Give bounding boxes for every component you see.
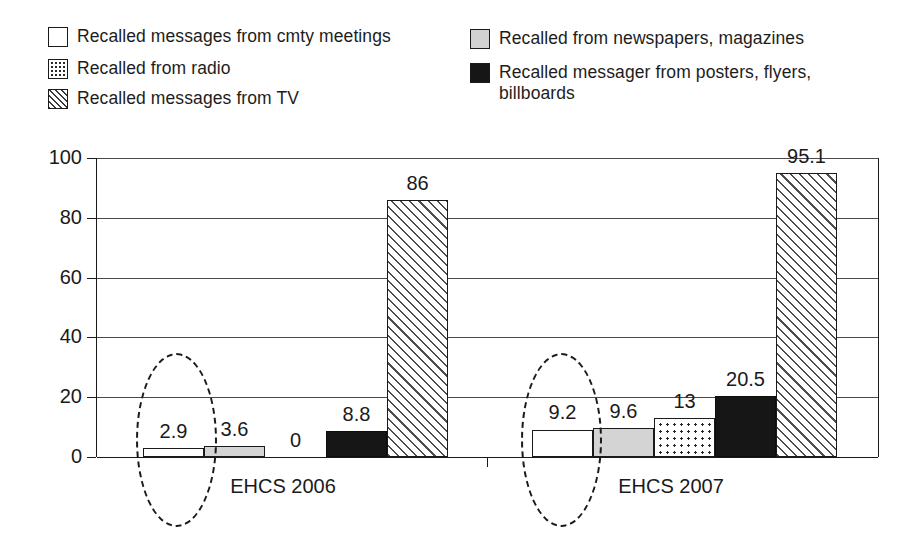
gridline <box>97 158 878 159</box>
bar-chart: 020406080100 2.93.608.8869.29.61320.595.… <box>0 0 922 548</box>
y-axis-tick-mark <box>87 397 96 398</box>
bar-value-label: 9.6 <box>610 400 638 423</box>
bar-value-label: 86 <box>406 172 428 195</box>
gridline <box>97 337 878 338</box>
x-axis-tick <box>487 457 488 467</box>
gridline <box>97 218 878 219</box>
bar-value-label: 9.2 <box>549 401 577 424</box>
y-axis-tick-mark <box>87 278 96 279</box>
bar <box>776 173 837 457</box>
x-axis-label: EHCS 2007 <box>618 475 724 498</box>
y-axis-tick-mark <box>87 158 96 159</box>
y-axis-tick-mark <box>87 337 96 338</box>
bar-value-label: 2.9 <box>160 420 188 443</box>
y-axis-tick-label: 80 <box>34 206 82 229</box>
bar <box>715 396 776 457</box>
bar <box>204 446 265 457</box>
bar-value-label: 3.6 <box>221 418 249 441</box>
bar-value-label: 95.1 <box>787 145 826 168</box>
bar-value-label: 13 <box>673 390 695 413</box>
gridline <box>97 278 878 279</box>
y-axis-tick-mark <box>87 457 96 458</box>
y-axis-tick-label: 60 <box>34 266 82 289</box>
bar-value-label: 20.5 <box>726 368 765 391</box>
y-axis-tick-mark <box>87 218 96 219</box>
plot-area: 2.93.608.8869.29.61320.595.1 <box>96 158 879 457</box>
y-axis-tick-label: 40 <box>34 325 82 348</box>
y-axis-tick-label: 0 <box>34 445 82 468</box>
y-axis-tick-label: 20 <box>34 385 82 408</box>
bar <box>143 448 204 457</box>
x-axis-label: EHCS 2006 <box>230 475 336 498</box>
bar <box>654 418 715 457</box>
bar <box>387 200 448 457</box>
bar <box>326 431 387 457</box>
bar <box>593 428 654 457</box>
bar-value-label: 0 <box>290 429 301 452</box>
bar-value-label: 8.8 <box>343 403 371 426</box>
bar <box>532 430 593 458</box>
y-axis-tick-label: 100 <box>34 146 82 169</box>
